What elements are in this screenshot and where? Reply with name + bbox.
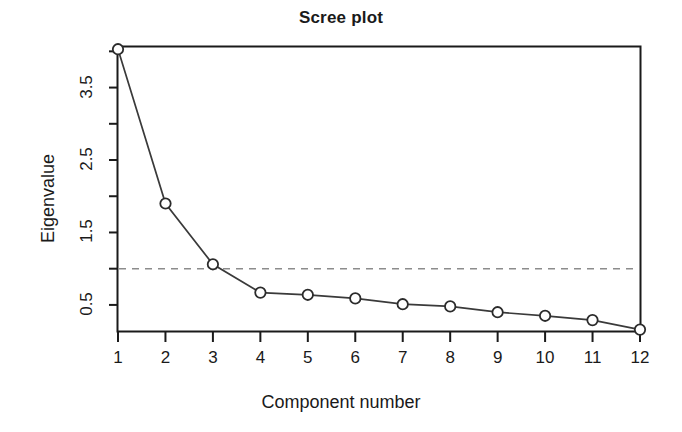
data-point-marker xyxy=(255,287,265,297)
plot-canvas xyxy=(0,0,682,432)
x-axis-tick-label: 3 xyxy=(208,348,217,368)
x-axis-tick-label: 11 xyxy=(584,348,602,368)
x-axis-ticks xyxy=(118,331,640,342)
data-point-marker xyxy=(398,299,408,309)
data-point-marker xyxy=(445,301,455,311)
data-point-marker xyxy=(587,315,597,325)
x-axis-tick-label: 4 xyxy=(256,348,265,368)
x-axis-tick-label: 8 xyxy=(445,348,454,368)
scree-data-line xyxy=(118,49,640,329)
x-axis-tick-label: 7 xyxy=(398,348,407,368)
data-point-marker xyxy=(113,44,123,54)
data-point-marker xyxy=(303,290,313,300)
scree-data-markers xyxy=(113,44,645,335)
y-axis-tick-label: 3.5 xyxy=(77,65,97,109)
data-point-marker xyxy=(208,259,218,269)
x-axis-tick-label: 10 xyxy=(536,348,555,368)
x-axis-tick-label: 1 xyxy=(113,348,122,368)
data-point-marker xyxy=(635,324,645,334)
data-point-marker xyxy=(540,311,550,321)
x-axis-tick-label: 6 xyxy=(351,348,360,368)
x-axis-tick-label: 2 xyxy=(161,348,170,368)
scree-plot-figure: Scree plot Eigenvalue Component number 0… xyxy=(0,0,682,432)
y-axis-tick-label: 2.5 xyxy=(77,137,97,181)
data-point-marker xyxy=(160,198,170,208)
x-axis-tick-label: 9 xyxy=(493,348,502,368)
x-axis-tick-label: 5 xyxy=(303,348,312,368)
data-point-marker xyxy=(350,293,360,303)
y-axis-tick-label: 1.5 xyxy=(77,209,97,253)
x-axis-tick-label: 12 xyxy=(631,348,650,368)
plot-frame xyxy=(118,47,641,332)
y-axis-tick-label: 0.5 xyxy=(77,282,97,326)
data-point-marker xyxy=(492,307,502,317)
